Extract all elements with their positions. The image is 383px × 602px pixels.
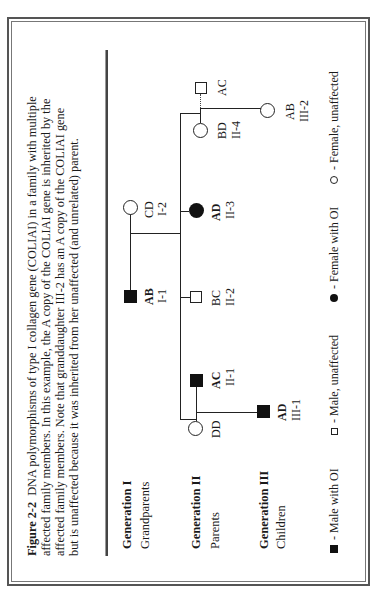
II-4-id: II-4	[230, 121, 242, 139]
II-2-id: II-2	[224, 288, 236, 306]
III-2-genotype: AB	[284, 103, 296, 120]
II-3-genotype: AD	[210, 204, 222, 221]
II-4-genotype: BD	[216, 122, 228, 139]
I-1-genotype: AB	[143, 288, 155, 305]
caption-line-3: affected family members. Note that grand…	[54, 108, 66, 556]
II-1-connector	[180, 419, 196, 420]
II-4-spouse-genotype: AC	[216, 79, 228, 96]
II-1-spouse-genotype: DD	[210, 421, 222, 438]
generation-2-subtitle: Parents	[209, 512, 222, 549]
caption-line-4: but is unaffected because it was inherit…	[68, 138, 80, 556]
individual-II-1-spouse-female-unaffected	[188, 421, 203, 436]
legend-filled-circle-icon	[330, 294, 338, 302]
individual-I-1-male-affected	[124, 290, 137, 303]
III-2-id: III-2	[298, 100, 310, 122]
legend-filled-square-icon	[330, 545, 338, 553]
II-1-genotype: AC	[210, 372, 222, 389]
individual-II-1-male-affected	[190, 374, 203, 387]
legend-open-circle-icon	[330, 176, 338, 184]
individual-II-3-female-affected	[189, 203, 204, 218]
individual-II-4-female-unaffected	[193, 123, 208, 138]
sibship-line-gen2	[180, 114, 181, 420]
II-2-genotype: BC	[210, 290, 222, 306]
individual-II-2-male-unaffected	[190, 291, 202, 303]
II-2-connector	[180, 297, 190, 298]
II-1-id: II-1	[224, 368, 236, 386]
generation-1-subtitle: Grandparents	[139, 482, 152, 549]
I-2-genotype: CD	[143, 201, 155, 218]
legend-male-unaffected-label: - Male, unaffected	[328, 335, 340, 423]
II-3-id: II-3	[224, 201, 236, 219]
III-1-id: III-1	[290, 399, 302, 421]
I-2-id: I-2	[156, 202, 168, 216]
legend-female-affected-label: - Female with OI	[328, 207, 340, 289]
generation-3-title: Generation III	[258, 471, 271, 549]
individual-III-2-female-unaffected	[260, 103, 275, 118]
legend-open-square-icon	[331, 428, 338, 435]
couple-line-gen1	[130, 214, 131, 292]
individual-II-4-spouse-male-unaffected	[195, 82, 207, 94]
caption-divider	[105, 50, 108, 556]
dotted-line-II-4-spouse	[200, 94, 201, 108]
individual-III-1-male-affected	[257, 405, 270, 418]
descent-line-III-2	[201, 108, 261, 109]
couple-line-II-4	[200, 108, 201, 123]
generation-3-subtitle: Children	[275, 505, 288, 549]
caption-line-1-text: DNA polymorphisms of type I collagen gen…	[25, 96, 39, 496]
generation-2-title: Generation II	[190, 476, 203, 549]
caption-line-2: affected family members. In this example…	[40, 99, 52, 556]
legend-male-affected-label: - Male with OI	[328, 468, 340, 540]
generation-1-title: Generation I	[121, 481, 134, 549]
III-1-genotype: AD	[276, 404, 288, 421]
legend-female-unaffected-label: - Female, unaffected	[328, 71, 340, 170]
individual-I-2-female-unaffected	[123, 200, 138, 215]
caption-line-1: Figure 2-2 DNA polymorphisms of type I c…	[26, 96, 38, 556]
figure-label: Figure 2-2	[25, 502, 39, 556]
I-1-id: I-1	[156, 289, 168, 303]
descent-line-gen1	[130, 233, 180, 234]
II-3-connector	[180, 211, 189, 212]
descent-line-III-1	[196, 412, 257, 413]
II-4-connector	[180, 113, 200, 114]
couple-line-II-1	[196, 387, 197, 421]
